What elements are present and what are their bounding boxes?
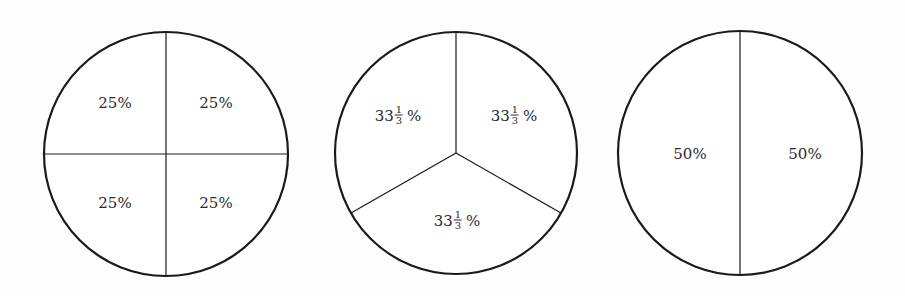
slice-label-bottom: 33 13 % (434, 210, 481, 231)
fraction: 13 (454, 210, 462, 231)
third-whole: 33 (491, 106, 510, 124)
pie-thirds (335, 32, 577, 274)
fraction-denominator: 3 (455, 221, 461, 231)
percent-sign: % (466, 211, 480, 229)
slice-label-upper-right: 33 13 % (491, 105, 538, 126)
third-whole: 33 (434, 211, 453, 229)
fraction-denominator: 3 (396, 116, 402, 126)
slice-label-right: 50% (788, 145, 821, 163)
pie-quarters (44, 32, 288, 276)
slice-label-upper-left: 33 13 % (375, 105, 422, 126)
percent-sign: % (523, 106, 537, 124)
slice-label-top-right: 25% (199, 94, 232, 112)
slice-label-bottom-right: 25% (199, 194, 232, 212)
slice-label-bottom-left: 25% (98, 194, 131, 212)
pie-diagrams: 25% 25% 25% 25% 33 13 % 33 13 % 33 13 % … (0, 0, 905, 296)
slice-label-left: 50% (673, 145, 706, 163)
percent-sign: % (407, 106, 421, 124)
fraction: 13 (511, 105, 519, 126)
fraction: 13 (395, 105, 403, 126)
third-whole: 33 (375, 106, 394, 124)
pie-shapes (0, 0, 905, 296)
fraction-denominator: 3 (512, 116, 518, 126)
pie-halves (618, 31, 862, 275)
slice-label-top-left: 25% (98, 94, 131, 112)
